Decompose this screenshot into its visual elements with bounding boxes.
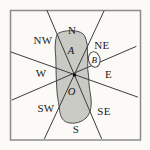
east-label: E xyxy=(105,68,112,80)
northwest-label: NW xyxy=(34,34,53,46)
origin-label: O xyxy=(68,86,76,97)
point-b-label: B xyxy=(92,55,98,65)
origin-dot xyxy=(73,73,77,77)
compass-diagram: N NW NE W E SW SE S A O B xyxy=(0,0,150,150)
southeast-label: SE xyxy=(97,105,110,117)
region-a-label: A xyxy=(67,45,75,56)
southwest-label: SW xyxy=(37,102,54,114)
northeast-label: NE xyxy=(94,39,109,51)
west-label: W xyxy=(36,67,47,79)
compass-diagram-canvas: N NW NE W E SW SE S A O B xyxy=(0,0,150,150)
north-label: N xyxy=(68,24,76,36)
south-label: S xyxy=(73,123,79,135)
